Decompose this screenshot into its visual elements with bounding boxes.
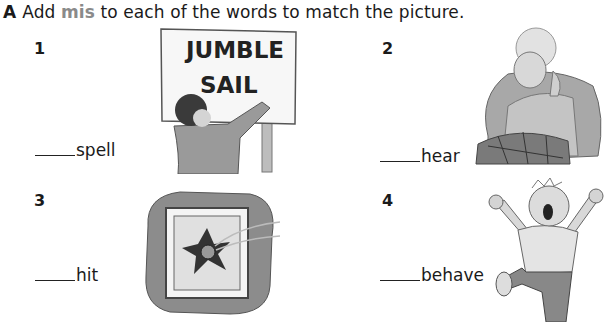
item-4: behave	[380, 265, 484, 285]
answer-blank-2[interactable]	[380, 161, 420, 162]
item-1: spell	[35, 140, 116, 160]
item-word-3: hit	[76, 265, 98, 285]
sign-text-line-1: JUMBLE	[184, 37, 284, 63]
item-3: hit	[35, 265, 98, 285]
item-word-4: behave	[421, 265, 484, 285]
grandmother-cupping-ear-picture	[468, 26, 606, 166]
answer-blank-3[interactable]	[35, 280, 75, 281]
item-number-1: 1	[34, 39, 45, 58]
item-word-2: hear	[421, 146, 460, 166]
answer-blank-1[interactable]	[35, 155, 75, 156]
instruction: AAdd mis to each of the words to match t…	[3, 2, 464, 22]
item-word-1: spell	[76, 140, 116, 160]
jumble-sail-sign-picture: JUMBLE SAIL	[158, 26, 300, 174]
sign-text-line-2: SAIL	[200, 72, 258, 98]
item-number-4: 4	[382, 191, 393, 210]
item-number-3: 3	[34, 191, 45, 210]
instruction-before: Add	[22, 2, 55, 22]
item-number-2: 2	[382, 39, 393, 58]
answer-blank-4[interactable]	[380, 280, 420, 281]
broken-window-picture	[140, 186, 280, 318]
boy-tantrum-picture	[482, 172, 606, 322]
instruction-highlight: mis	[61, 2, 95, 22]
item-2: hear	[380, 146, 460, 166]
section-letter: A	[3, 2, 16, 22]
instruction-after: to each of the words to match the pictur…	[100, 2, 464, 22]
